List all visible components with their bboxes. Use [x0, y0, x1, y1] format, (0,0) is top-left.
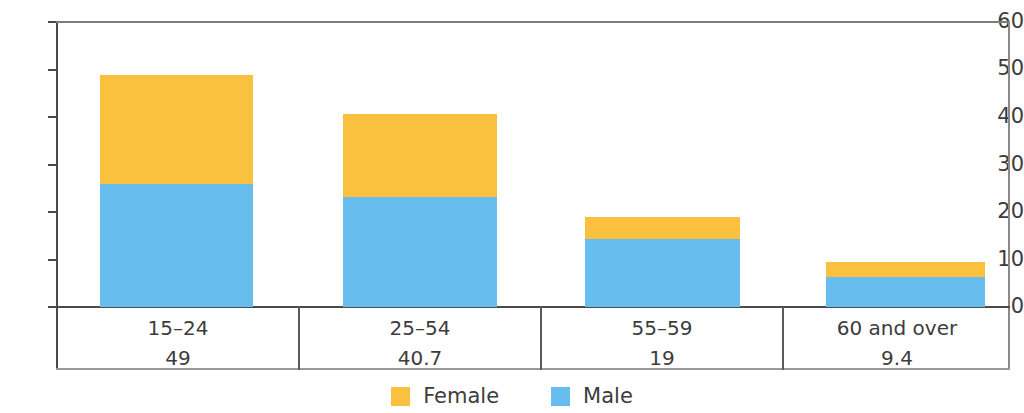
bar-segment-female[interactable] — [826, 262, 985, 276]
category-total: 40.7 — [300, 346, 540, 370]
bar-stack — [343, 114, 497, 307]
stacked-bar-chart-figure: 60 50 40 30 20 10 0 — [0, 0, 1024, 413]
bar-segment-female[interactable] — [100, 75, 253, 184]
bar-group-55-59[interactable] — [585, 21, 740, 307]
bar-stack — [585, 217, 740, 307]
plot-area — [56, 21, 1010, 307]
bar-segment-male[interactable] — [585, 239, 740, 307]
bar-group-15-24[interactable] — [100, 21, 253, 307]
bar-group-60-and-over[interactable] — [826, 21, 985, 307]
chart-legend: Female Male — [0, 386, 1024, 407]
legend-swatch-female-icon — [391, 387, 410, 406]
legend-item-male[interactable]: Male — [551, 386, 633, 407]
legend-label-male: Male — [583, 386, 633, 407]
bar-stack — [826, 262, 985, 307]
bar-segment-male[interactable] — [343, 197, 497, 307]
bar-stack — [100, 75, 253, 307]
bar-segment-male[interactable] — [100, 184, 253, 307]
legend-label-female: Female — [423, 386, 499, 407]
bar-group-25-54[interactable] — [343, 21, 497, 307]
category-cell-60-and-over: 60 and over 9.4 — [784, 307, 1010, 369]
category-label: 55–59 — [542, 316, 782, 340]
bar-segment-female[interactable] — [343, 114, 497, 196]
bar-segment-male[interactable] — [826, 277, 985, 308]
category-label: 60 and over — [784, 316, 1010, 340]
category-label: 15–24 — [58, 316, 298, 340]
category-total: 19 — [542, 346, 782, 370]
bar-segment-female[interactable] — [585, 217, 740, 239]
legend-swatch-male-icon — [551, 387, 570, 406]
category-cell-55-59: 55–59 19 — [542, 307, 782, 369]
category-total: 9.4 — [784, 346, 1010, 370]
category-cell-15-24: 15–24 49 — [58, 307, 298, 369]
category-label: 25–54 — [300, 316, 540, 340]
legend-item-female[interactable]: Female — [391, 386, 499, 407]
category-total: 49 — [58, 346, 298, 370]
category-cell-25-54: 25–54 40.7 — [300, 307, 540, 369]
